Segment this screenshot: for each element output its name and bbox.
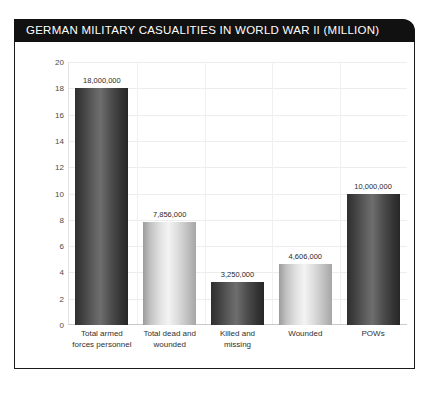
bar-value-label: 7,856,000: [153, 210, 186, 219]
bar-slot: 10,000,000: [347, 62, 400, 325]
bar-slot: 18,000,000: [75, 62, 128, 325]
bar-value-label: 4,606,000: [289, 252, 322, 261]
x-axis-category-labels: Total armedforces personnelTotal dead an…: [68, 329, 407, 365]
bar[interactable]: [143, 222, 196, 325]
bar[interactable]: [279, 264, 332, 325]
x-axis-label-4: POWs: [339, 329, 407, 340]
chart-title: GERMAN MILITARY CASUALITIES IN WORLD WAR…: [26, 24, 379, 36]
bar-series: 18,000,0007,856,0003,250,0004,606,00010,…: [68, 62, 407, 325]
bar[interactable]: [211, 282, 264, 325]
y-axis-tick-10: 10: [24, 189, 64, 198]
y-axis-tick-labels: 20181614121086420: [19, 62, 64, 325]
x-axis-label-1: Total dead andwounded: [136, 329, 204, 350]
y-axis-tick-16: 16: [24, 110, 64, 119]
bar-value-label: 10,000,000: [354, 182, 392, 191]
y-axis-tick-18: 18: [24, 84, 64, 93]
chart-card: GERMAN MILITARY CASUALITIES IN WORLD WAR…: [14, 19, 415, 369]
y-axis-tick-2: 2: [24, 294, 64, 303]
chart-frame: 20181614121086420 18,000,0007,856,0003,2…: [14, 42, 415, 369]
bar-slot: 3,250,000: [211, 62, 264, 325]
y-axis-tick-12: 12: [24, 163, 64, 172]
x-axis-label-2: Killed andmissing: [204, 329, 272, 350]
y-axis-tick-20: 20: [24, 58, 64, 67]
y-axis-tick-6: 6: [24, 242, 64, 251]
bar-value-label: 3,250,000: [221, 270, 254, 279]
y-axis-tick-4: 4: [24, 268, 64, 277]
bar-slot: 7,856,000: [143, 62, 196, 325]
x-axis-label-0: Total armedforces personnel: [68, 329, 136, 350]
bar-slot: 4,606,000: [279, 62, 332, 325]
y-axis-tick-8: 8: [24, 215, 64, 224]
bar[interactable]: [75, 88, 128, 325]
y-axis-tick-0: 0: [24, 321, 64, 330]
plot-wrapper: 20181614121086420 18,000,0007,856,0003,2…: [15, 42, 416, 369]
bar-value-label: 18,000,000: [83, 76, 121, 85]
bar[interactable]: [347, 194, 400, 326]
x-axis-label-3: Wounded: [271, 329, 339, 340]
y-axis-tick-14: 14: [24, 136, 64, 145]
chart-title-bar: GERMAN MILITARY CASUALITIES IN WORLD WAR…: [14, 19, 415, 42]
